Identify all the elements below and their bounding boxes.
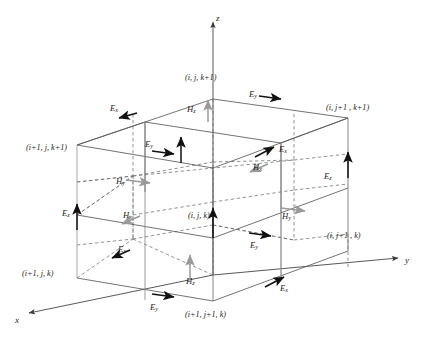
y-axis-label: y xyxy=(405,256,409,265)
hidden-bdiag-2 xyxy=(213,225,294,240)
diagram-canvas xyxy=(0,0,423,341)
field-label-ex-lower-left: Ex xyxy=(118,245,126,255)
field-label-ey-upper-mid: Ey xyxy=(145,140,153,150)
field-sub: z xyxy=(67,211,69,218)
field-label-ex-bottom-right: Ex xyxy=(280,284,288,294)
node-i-jplus1-kplus1: (i, j+1 , k+1) xyxy=(326,104,369,112)
hidden-mplane-5 xyxy=(294,184,348,190)
top-sub-diag-r xyxy=(281,118,348,143)
z-axis-label: z xyxy=(216,14,220,23)
x-axis-label: x xyxy=(15,316,19,325)
field-sub: x xyxy=(285,286,288,293)
field-label-hx-left: Hx xyxy=(123,211,132,221)
solid-edges xyxy=(77,99,348,301)
field-sub: x xyxy=(259,165,262,172)
field-label-ey-top-right: Ey xyxy=(249,90,257,100)
field-sub: y xyxy=(254,92,257,99)
field-sub: y xyxy=(122,179,125,186)
hidden-mid-right-back xyxy=(294,154,348,160)
node-iplus1-j-k: (i+1, j, k) xyxy=(22,270,53,278)
field-sub: x xyxy=(115,106,118,113)
field-sub: x xyxy=(284,147,287,154)
field-sub: x xyxy=(129,213,132,220)
e-field-arrows xyxy=(77,96,348,297)
field-label-ez-left: Ez xyxy=(62,209,70,219)
field-sub: y xyxy=(155,305,158,312)
field-sub: y xyxy=(255,243,258,250)
field-label-ex-upper-right: Ex xyxy=(279,145,287,155)
h-field-arrows xyxy=(122,100,305,280)
node-iplus1-j-kplus1: (i+1, j, k+1) xyxy=(26,144,67,152)
field-label-hz-bottom: Hz xyxy=(186,277,195,287)
inner-front-l xyxy=(145,192,213,203)
top-sub-diag-l xyxy=(77,122,145,145)
yee-cell-diagram: (i, j, k+1) (i, j+1 , k+1) (i+1, j, k+1)… xyxy=(0,0,423,341)
node-iplus1-jplus1-k: (i+1, j+1, k) xyxy=(185,311,226,319)
field-label-hz-top: Hz xyxy=(187,105,196,115)
arrow-ey-bottom xyxy=(152,294,174,297)
field-label-ez-right: Ez xyxy=(324,172,332,182)
field-sub: y xyxy=(150,142,153,149)
field-label-ey-lower-right: Ey xyxy=(250,241,258,251)
field-sub: y xyxy=(288,214,291,221)
field-sub: z xyxy=(329,174,331,181)
field-label-ex-top-left: Ex xyxy=(110,104,118,114)
field-sub: z xyxy=(193,107,195,114)
node-i-j-kplus1: (i, j, k+1) xyxy=(185,74,216,82)
field-label-hx-upper-right: Hx xyxy=(253,163,262,173)
arrow-ex-top-left xyxy=(119,113,137,118)
node-i-j-k: (i, j, k) xyxy=(188,212,210,220)
field-label-ey-bottom: Ey xyxy=(150,303,158,313)
arrow-ey-top-right xyxy=(259,96,281,99)
node-i-jplus1-k: (i, j+1 , k) xyxy=(327,232,361,240)
arrow-ey-upper-mid xyxy=(152,151,174,154)
field-sub: z xyxy=(192,279,194,286)
field-sub: x xyxy=(123,247,126,254)
arrow-hy-left xyxy=(126,180,150,183)
arrow-ey-lower-right xyxy=(249,233,271,236)
hidden-mplane-4 xyxy=(213,190,294,202)
field-label-hy-right: Hy xyxy=(282,212,291,222)
field-label-hy-left: Hy xyxy=(116,177,125,187)
